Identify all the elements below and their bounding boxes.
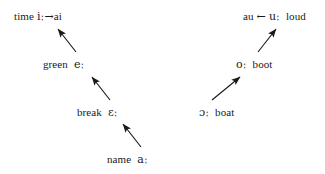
node-loud-word: loud [286, 10, 306, 22]
node-boat-word: boat [215, 106, 234, 118]
node-boot-phoneme: oː [236, 58, 247, 71]
arrow-break-to-green [92, 77, 110, 100]
node-name-phoneme: aː [137, 153, 147, 166]
node-loud-phoneme: uː [269, 10, 280, 23]
node-break-phoneme: ɛː [108, 106, 118, 119]
arrow-green-to-time [58, 29, 76, 52]
node-boat-phoneme: ɔː [199, 106, 209, 119]
vowel-shift-diagram: timeiː→ai greeneː breakɛː nameaː au←uːlo… [0, 0, 325, 174]
node-name-word: name [107, 153, 131, 165]
node-green: greeneː [43, 58, 84, 71]
node-name: nameaː [107, 153, 148, 166]
node-break-word: break [77, 106, 102, 118]
arrow-name-to-break [123, 124, 141, 147]
node-green-word: green [43, 58, 68, 70]
node-green-phoneme: eː [74, 58, 84, 71]
inline-arrow-right-icon: → [44, 10, 53, 23]
inline-arrow-left-icon: ← [257, 10, 266, 23]
arrow-boot-to-loud [258, 29, 276, 52]
node-time-result: ai [54, 10, 62, 22]
node-time: timeiː→ai [14, 10, 62, 23]
node-boat: ɔːboat [199, 106, 234, 119]
node-loud-result: au [243, 10, 254, 22]
arrow-boat-to-boot [212, 77, 240, 100]
arrow-layer [0, 0, 325, 174]
node-boot-word: boot [253, 58, 273, 70]
node-boot: oːboot [236, 58, 273, 71]
node-loud: au←uːloud [243, 10, 306, 23]
node-time-word: time [14, 10, 34, 22]
node-break: breakɛː [77, 106, 118, 119]
